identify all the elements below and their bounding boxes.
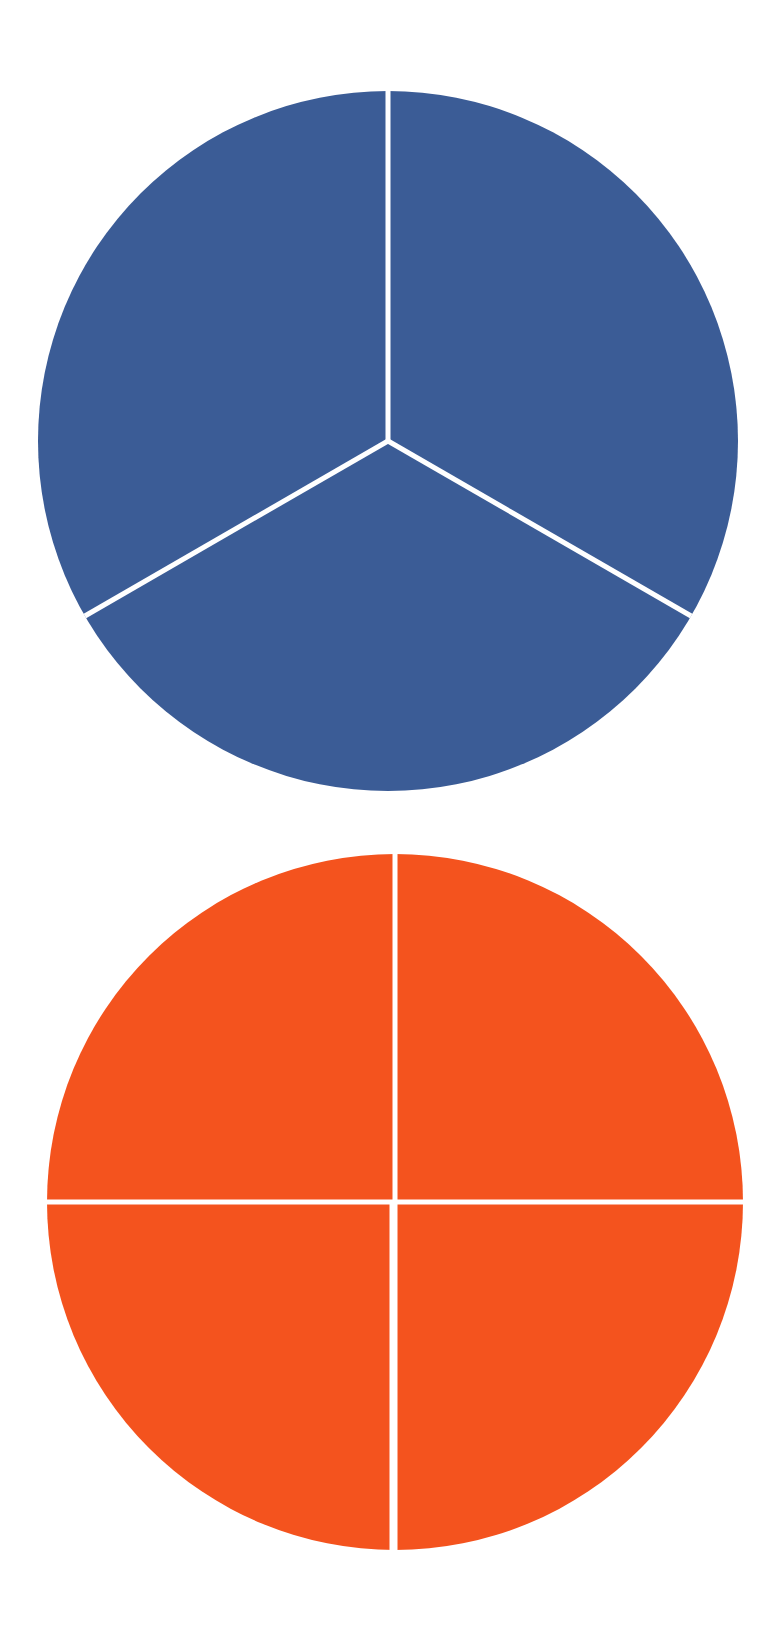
blue-pie-chart	[38, 91, 738, 791]
figure-canvas	[0, 0, 784, 1633]
pie-charts-svg	[0, 0, 784, 1633]
